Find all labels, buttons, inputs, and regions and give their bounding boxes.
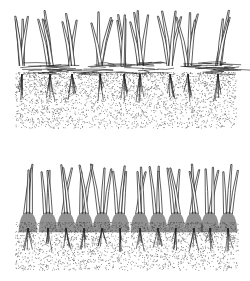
- grass-bottom: [19, 164, 238, 252]
- grass-top: [15, 10, 231, 66]
- thatch-layer: [18, 62, 250, 103]
- grass-thatch-drawing: [0, 0, 250, 281]
- illustration: Grass with thatch layer Grass after deth…: [0, 0, 250, 281]
- soil-top: [15, 72, 237, 129]
